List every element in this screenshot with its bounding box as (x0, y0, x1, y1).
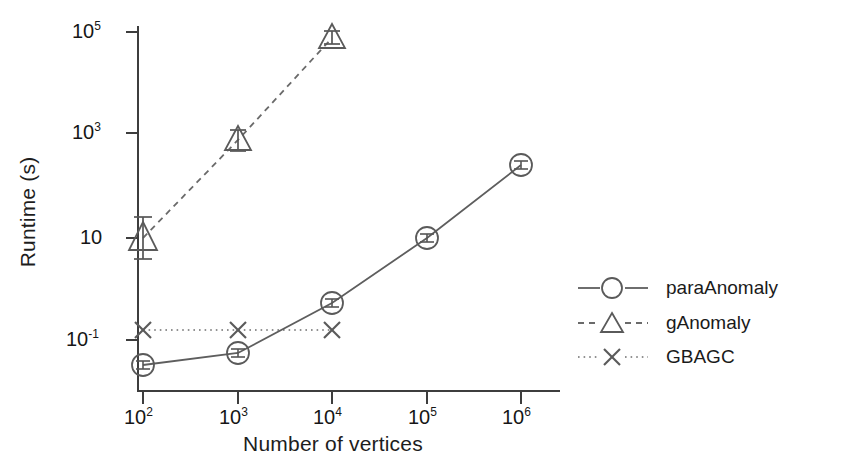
series-ganomaly-errorbars (134, 31, 340, 259)
y-tick-label-1: 103 (72, 121, 101, 144)
legend-sample-ganomaly (578, 313, 648, 332)
plot-area (0, 0, 844, 476)
x-axis-ticks (143, 391, 521, 404)
y-axis-title: Runtime (s) (16, 122, 40, 302)
y-tick-label-2: 10 (80, 226, 102, 249)
x-tick-label-0: 102 (124, 406, 153, 429)
legend-label-gbagc: GBAGC (666, 346, 735, 368)
legend-samples (578, 278, 648, 365)
legend-label-ganomaly: gAnomaly (666, 312, 751, 334)
series-paraanomaly-errorbars (136, 161, 528, 369)
series-gbagc (135, 322, 340, 338)
legend-sample-paraanomaly (578, 278, 648, 298)
y-tick-label-3: 10-1 (66, 328, 99, 351)
legend-sample-gbagc (578, 349, 648, 365)
series-paraanomaly-line (143, 165, 521, 365)
chart-figure: 105 103 10 10-1 102 103 104 105 106 Runt… (0, 0, 844, 476)
legend-label-paraanomaly: paraAnomaly (666, 277, 778, 299)
y-axis-ticks (126, 32, 138, 340)
series-ganomaly (129, 24, 345, 259)
y-tick-label-0: 105 (72, 20, 101, 43)
x-tick-label-4: 106 (502, 406, 531, 429)
x-tick-label-2: 104 (313, 406, 342, 429)
x-tick-label-1: 103 (219, 406, 248, 429)
x-tick-label-3: 105 (408, 406, 437, 429)
x-axis-title: Number of vertices (193, 432, 473, 456)
